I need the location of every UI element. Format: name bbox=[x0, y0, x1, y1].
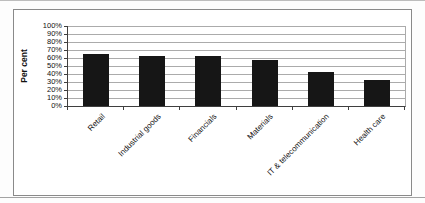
bar-industrial-goods bbox=[139, 56, 165, 106]
chart-canvas: Per cent 0%10%20%30%40%50%60%70%80%90%10… bbox=[0, 0, 425, 203]
gridline bbox=[68, 66, 405, 67]
gridline bbox=[68, 58, 405, 59]
top-rule bbox=[0, 0, 425, 1]
bottom-rule bbox=[0, 197, 425, 198]
x-tick-mark bbox=[67, 107, 68, 110]
gridline bbox=[68, 82, 405, 83]
y-tick-mark bbox=[64, 34, 67, 35]
y-tick-label: 100% bbox=[28, 21, 62, 31]
gridline bbox=[68, 26, 405, 27]
y-tick-mark bbox=[64, 74, 67, 75]
gridline bbox=[68, 50, 405, 51]
gridline bbox=[68, 42, 405, 43]
bar-retail bbox=[83, 54, 109, 106]
y-tick-mark bbox=[64, 98, 67, 99]
gridline bbox=[68, 90, 405, 91]
y-tick-mark bbox=[64, 42, 67, 43]
x-tick-mark bbox=[348, 107, 349, 110]
x-tick-mark bbox=[236, 107, 237, 110]
x-tick-mark bbox=[123, 107, 124, 110]
x-tick-mark bbox=[179, 107, 180, 110]
gridline bbox=[68, 98, 405, 99]
y-tick-mark bbox=[64, 66, 67, 67]
bar-financials bbox=[195, 56, 221, 106]
bar-health-care bbox=[364, 80, 390, 106]
y-tick-mark bbox=[64, 82, 67, 83]
gridline bbox=[68, 34, 405, 35]
x-tick-mark bbox=[292, 107, 293, 110]
y-tick-mark bbox=[64, 90, 67, 91]
plot-area bbox=[67, 26, 406, 107]
bar-materials bbox=[252, 60, 278, 106]
x-tick-mark bbox=[404, 107, 405, 110]
bar-it-telecommunication bbox=[308, 72, 334, 106]
y-tick-mark bbox=[64, 26, 67, 27]
y-tick-mark bbox=[64, 50, 67, 51]
gridline bbox=[68, 74, 405, 75]
y-tick-mark bbox=[64, 58, 67, 59]
